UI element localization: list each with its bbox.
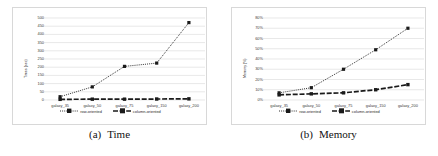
- chart-frame-memory: 0%10%20%30%40%50%60%70%80% Memory (%) ga…: [231, 7, 426, 125]
- legend-memory: row-oriented column-oriented: [232, 108, 427, 114]
- legend-marker-dashed-icon: [332, 108, 350, 114]
- panel-memory: 0%10%20%30%40%50%60%70%80% Memory (%) ga…: [219, 0, 438, 156]
- data-point-marker: [406, 27, 409, 30]
- caption-memory: (b)Memory: [219, 128, 438, 140]
- caption-label-b: (b): [300, 128, 313, 140]
- caption-text-a: Time: [107, 128, 130, 140]
- legend-item-row-oriented[interactable]: row-oriented: [279, 108, 321, 114]
- legend-marker-dotted-icon: [279, 108, 297, 114]
- data-point-marker: [310, 86, 313, 89]
- data-point-marker: [91, 85, 94, 88]
- caption-text-b: Memory: [319, 128, 357, 140]
- legend-time: row-oriented column-oriented: [13, 108, 208, 114]
- data-point-marker: [91, 97, 94, 100]
- figure-two-panel: 050100150200250300350400450500 Times (se…: [0, 0, 438, 156]
- chart-frame-time: 050100150200250300350400450500 Times (se…: [12, 7, 207, 125]
- legend-marker-dotted-icon: [60, 108, 78, 114]
- data-point-marker: [155, 97, 158, 100]
- legend-marker-dashed-icon: [113, 108, 131, 114]
- data-point-marker: [310, 92, 313, 95]
- series-line-row-oriented: [60, 23, 189, 97]
- data-point-marker: [406, 83, 409, 86]
- data-point-marker: [187, 97, 190, 100]
- data-point-marker: [187, 21, 190, 24]
- legend-label-row-oriented: row-oriented: [80, 109, 102, 114]
- data-point-marker: [155, 62, 158, 65]
- caption-label-a: (a): [89, 128, 101, 140]
- data-point-marker: [374, 88, 377, 91]
- legend-label-row-oriented: row-oriented: [299, 109, 321, 114]
- series-line-row-oriented: [279, 28, 408, 93]
- data-point-marker: [123, 97, 126, 100]
- legend-label-column-oriented: column-oriented: [133, 109, 161, 114]
- data-point-marker: [123, 65, 126, 68]
- legend-item-column-oriented[interactable]: column-oriented: [113, 108, 161, 114]
- data-point-marker: [342, 68, 345, 71]
- data-point-marker: [374, 48, 377, 51]
- panel-time: 050100150200250300350400450500 Times (se…: [0, 0, 219, 156]
- legend-label-column-oriented: column-oriented: [352, 109, 380, 114]
- data-point-marker: [58, 98, 61, 101]
- legend-item-row-oriented[interactable]: row-oriented: [60, 108, 102, 114]
- legend-item-column-oriented[interactable]: column-oriented: [332, 108, 380, 114]
- caption-time: (a)Time: [0, 128, 219, 140]
- data-point-marker: [277, 93, 280, 96]
- data-point-marker: [342, 91, 345, 94]
